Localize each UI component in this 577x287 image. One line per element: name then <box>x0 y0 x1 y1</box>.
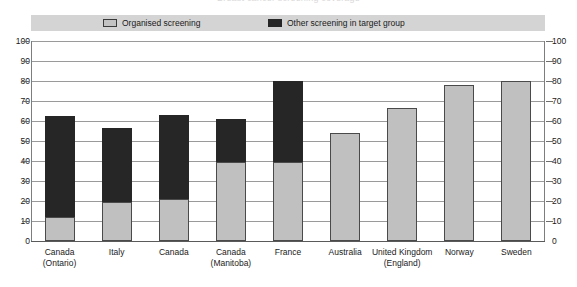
bar-segment-organised[interactable] <box>330 133 360 241</box>
legend-label-other: Other screening in target group <box>287 18 405 28</box>
bar-segment-organised[interactable] <box>273 162 303 241</box>
y-tick-label-right-80: 80 <box>552 77 561 86</box>
bar-group[interactable] <box>501 41 531 241</box>
bar-segment-other[interactable] <box>273 81 303 162</box>
y-tick-mark-left-50 <box>22 141 29 142</box>
bar-segment-organised[interactable] <box>159 199 189 241</box>
bar-segment-organised[interactable] <box>444 85 474 241</box>
y-tick-label-right-100: 100 <box>552 37 566 46</box>
gridline-0 <box>31 241 545 242</box>
bar-segment-organised[interactable] <box>216 162 246 241</box>
y-tick-mark-right-20 <box>546 201 553 202</box>
y-tick-label-left-0: 0 <box>25 237 30 246</box>
bar-segment-other[interactable] <box>102 128 132 202</box>
y-tick-mark-left-70 <box>22 101 29 102</box>
y-tick-label-right-40: 40 <box>552 157 561 166</box>
y-tick-mark-right-90 <box>546 61 553 62</box>
x-axis-label: Sweden <box>482 247 551 258</box>
y-tick-label-right-50: 50 <box>552 137 561 146</box>
y-tick-label-right-0: 0 <box>552 237 557 246</box>
y-tick-mark-right-50 <box>546 141 553 142</box>
bar-segment-organised[interactable] <box>387 108 417 241</box>
y-tick-label-right-20: 20 <box>552 197 561 206</box>
legend-item-organised-screening: Organised screening <box>103 15 200 31</box>
y-tick-label-right-60: 60 <box>552 117 561 126</box>
bar-segment-other[interactable] <box>159 115 189 199</box>
y-tick-mark-left-90 <box>22 61 29 62</box>
y-tick-mark-right-60 <box>546 121 553 122</box>
bar-group[interactable] <box>45 41 75 241</box>
legend-label-organised: Organised screening <box>122 18 200 28</box>
y-tick-label-right-30: 30 <box>552 177 561 186</box>
bar-group[interactable] <box>102 41 132 241</box>
y-tick-mark-right-30 <box>546 181 553 182</box>
y-tick-mark-right-80 <box>546 81 553 82</box>
chart-title: Breast cancer screening coverage <box>0 0 577 3</box>
bar-group[interactable] <box>273 41 303 241</box>
bar-segment-organised[interactable] <box>102 202 132 241</box>
y-tick-label-right-70: 70 <box>552 97 561 106</box>
chart-container: Breast cancer screening coverage Organis… <box>0 0 577 287</box>
plot-area <box>31 41 545 241</box>
bar-group[interactable] <box>330 41 360 241</box>
y-tick-mark-right-10 <box>546 221 553 222</box>
y-tick-mark-left-60 <box>22 121 29 122</box>
bar-segment-organised[interactable] <box>501 81 531 241</box>
legend-item-other-screening: Other screening in target group <box>268 15 405 31</box>
y-tick-mark-left-20 <box>22 201 29 202</box>
bar-group[interactable] <box>387 41 417 241</box>
bar-group[interactable] <box>159 41 189 241</box>
chart-legend: Organised screening Other screening in t… <box>31 15 545 31</box>
bar-segment-other[interactable] <box>216 119 246 162</box>
y-tick-label-right-10: 10 <box>552 217 561 226</box>
y-tick-mark-left-10 <box>22 221 29 222</box>
y-tick-mark-right-40 <box>546 161 553 162</box>
bar-segment-other[interactable] <box>45 116 75 217</box>
y-tick-mark-left-30 <box>22 181 29 182</box>
y-tick-mark-left-100 <box>22 41 29 42</box>
y-tick-label-right-90: 90 <box>552 57 561 66</box>
y-tick-mark-right-70 <box>546 101 553 102</box>
bar-group[interactable] <box>444 41 474 241</box>
bar-group[interactable] <box>216 41 246 241</box>
y-tick-mark-left-80 <box>22 81 29 82</box>
legend-swatch-organised-icon <box>103 19 117 27</box>
y-tick-mark-right-100 <box>546 41 553 42</box>
legend-swatch-other-icon <box>268 19 282 27</box>
y-tick-mark-left-40 <box>22 161 29 162</box>
bar-segment-organised[interactable] <box>45 217 75 241</box>
